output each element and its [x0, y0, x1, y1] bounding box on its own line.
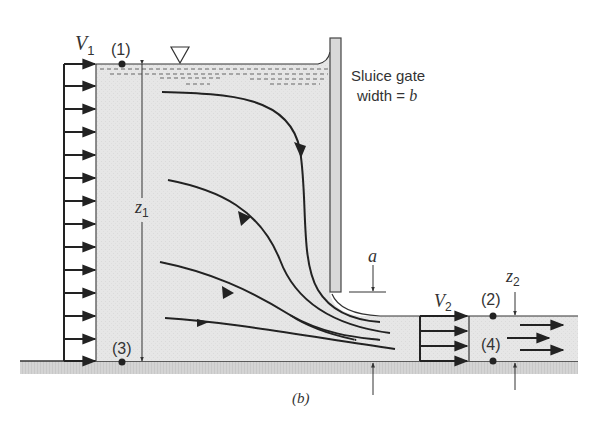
point-4-marker: [490, 358, 497, 365]
free-surface-line: [96, 52, 330, 64]
z2-label: z2: [505, 266, 520, 289]
v1-label: V1: [75, 32, 94, 58]
sluice-gate: [330, 38, 341, 292]
gate-label-line2: width = b: [356, 87, 417, 104]
a-label: a: [368, 246, 377, 266]
figure-caption: (b): [292, 390, 310, 407]
point-3-label: (3): [112, 340, 132, 357]
point-4-label: (4): [481, 336, 501, 353]
vena-contracta-surface: [332, 294, 578, 316]
upstream-velocity-profile: [64, 64, 95, 361]
point-1-label: (1): [111, 41, 131, 58]
gate-label-line1: Sluice gate: [351, 67, 425, 84]
v2-label: V2: [434, 291, 452, 314]
point-1-marker: [119, 61, 126, 68]
point-3-marker: [119, 359, 126, 366]
point-2-marker: [490, 313, 497, 320]
point-2-label: (2): [481, 291, 501, 308]
free-surface-triangle-icon: [171, 47, 189, 63]
sluice-gate-diagram: V1 (1) (3) (2) (4) z1 z2 V2 a Sluice gat…: [0, 0, 609, 423]
